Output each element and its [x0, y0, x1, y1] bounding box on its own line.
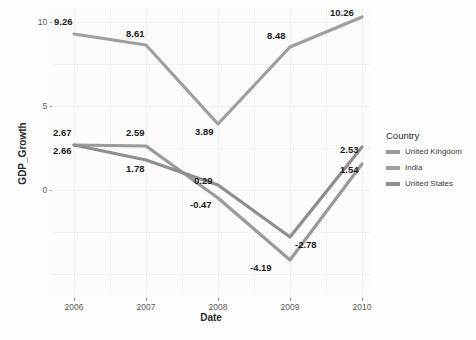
- series-lines: [52, 8, 370, 294]
- data-label-india-2008: 3.89: [195, 126, 214, 137]
- x-tick-2007: 2007: [116, 298, 176, 312]
- data-label-uk-2006: 2.66: [53, 145, 72, 156]
- x-axis-title: Date: [52, 312, 370, 323]
- legend-label-united-kingdom: United Kingdom: [405, 147, 462, 156]
- legend-swatch-united-states: [386, 182, 400, 186]
- legend-label-united-states: United States: [405, 179, 453, 188]
- plot-panel: 9.26 8.61 3.89 8.48 10.26 2.67 2.66 2.59…: [52, 8, 370, 294]
- data-label-us-2010: 2.53: [340, 144, 359, 155]
- data-label-us-2008: 0.29: [194, 175, 213, 186]
- y-tick-0: 0-: [6, 185, 52, 195]
- legend-title: Country: [386, 130, 474, 141]
- x-tick-2006: 2006: [44, 298, 104, 312]
- chart-page: 9.26 8.61 3.89 8.48 10.26 2.67 2.66 2.59…: [0, 0, 476, 340]
- legend-swatch-india: [386, 166, 400, 170]
- data-label-india-2009: 8.48: [267, 30, 286, 41]
- legend-swatch-united-kingdom: [386, 150, 400, 154]
- data-label-uk-2007: 2.59: [126, 127, 145, 138]
- legend-item-india[interactable]: India: [386, 163, 474, 172]
- y-axis-title: GDP_Growth: [17, 94, 28, 214]
- data-label-uk-2008: -0.47: [190, 199, 212, 210]
- data-label-uk-2010: 1.54: [340, 164, 359, 175]
- data-label-india-2007: 8.61: [126, 28, 145, 39]
- legend-item-united-kingdom[interactable]: United Kingdom: [386, 147, 474, 156]
- data-label-india-2006: 9.26: [54, 16, 73, 27]
- data-label-us-2007: 1.78: [126, 163, 145, 174]
- legend-label-india: India: [405, 163, 422, 172]
- data-label-india-2010: 10.26: [330, 7, 354, 18]
- data-label-us-2009: -2.78: [295, 239, 317, 250]
- line-india: [74, 17, 362, 124]
- x-tick-2010: 2010: [332, 298, 392, 312]
- legend-item-united-states[interactable]: United States: [386, 179, 474, 188]
- data-label-us-2006: 2.67: [53, 127, 72, 138]
- legend: Country United Kingdom India United Stat…: [386, 130, 474, 195]
- x-tick-2008: 2008: [188, 298, 248, 312]
- x-tick-2009: 2009: [260, 298, 320, 312]
- y-tick-5: 5-: [6, 101, 52, 111]
- data-label-uk-2009: -4.19: [250, 262, 272, 273]
- y-tick-10: 10-: [6, 17, 52, 27]
